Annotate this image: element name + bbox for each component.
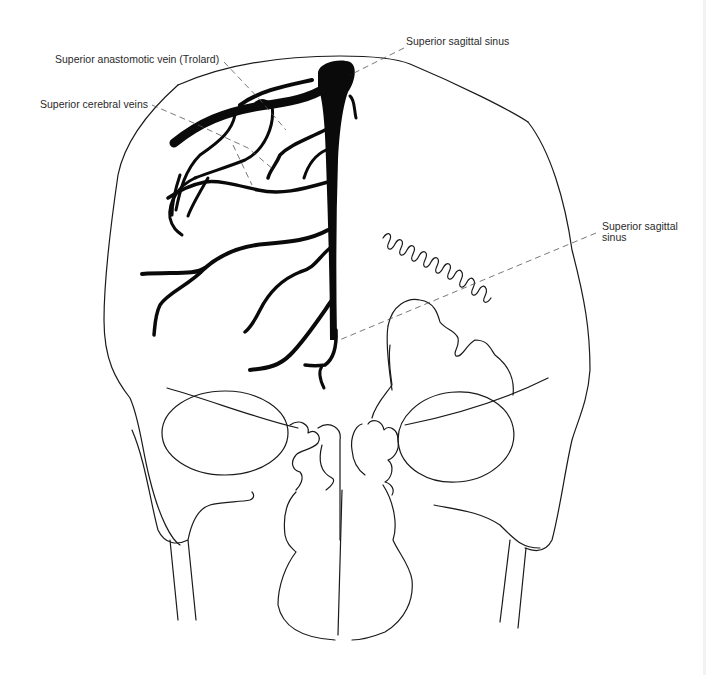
leader-lines — [152, 48, 596, 341]
wavy-suture — [383, 234, 513, 395]
superior-cerebral-veins — [142, 80, 356, 388]
left-jaw — [132, 430, 254, 620]
superior-sagittal-sinus — [318, 60, 355, 340]
label-superior-sagittal-sinus-right-line2: sinus — [602, 232, 627, 243]
skull-vein-diagram: Superior anastomotic vein (Trolard) Supe… — [0, 0, 706, 675]
label-superior-cerebral-veins: Superior cerebral veins — [40, 99, 148, 110]
skull-outline — [104, 56, 590, 550]
right-jaw — [434, 505, 540, 628]
orbits — [162, 378, 548, 488]
label-superior-anastomotic-vein: Superior anastomotic vein (Trolard) — [55, 54, 219, 65]
label-superior-sagittal-sinus-top: Superior sagittal sinus — [406, 36, 509, 47]
